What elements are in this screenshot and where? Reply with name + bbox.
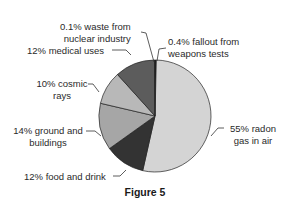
label-line: 0.1% waste from bbox=[60, 21, 131, 33]
leader-waste bbox=[141, 32, 154, 62]
label-line: gas in air bbox=[225, 135, 281, 147]
figure-caption: Figure 5 bbox=[0, 186, 290, 198]
label-line: buildings bbox=[10, 137, 86, 149]
label-line: 0.4% fallout from bbox=[168, 36, 239, 48]
leader-food bbox=[113, 170, 126, 176]
label-line: 10% cosmic bbox=[35, 78, 89, 90]
label-ground-buildings: 14% ground and buildings bbox=[10, 125, 86, 149]
label-food-drink: 12% food and drink bbox=[24, 171, 106, 183]
leader-cosmic bbox=[88, 84, 99, 92]
label-line: rays bbox=[35, 90, 89, 102]
pie-slices bbox=[99, 60, 211, 172]
label-line: weapons tests bbox=[168, 48, 239, 60]
label-line: 14% ground and bbox=[10, 125, 86, 137]
label-cosmic-rays: 10% cosmic rays bbox=[35, 78, 89, 102]
leader-fallout bbox=[157, 48, 166, 61]
label-fallout-weapons-tests: 0.4% fallout from weapons tests bbox=[168, 36, 239, 60]
label-line: nuclear industry bbox=[60, 33, 131, 45]
leader-medical bbox=[112, 50, 131, 55]
label-radon-gas: 55% radon gas in air bbox=[225, 123, 281, 147]
leader-ground bbox=[86, 131, 101, 136]
label-medical-uses: 12% medical uses bbox=[27, 45, 104, 57]
label-waste-nuclear-industry: 0.1% waste from nuclear industry bbox=[60, 21, 131, 45]
label-line: 55% radon bbox=[225, 123, 281, 135]
leader-radon bbox=[211, 128, 224, 136]
